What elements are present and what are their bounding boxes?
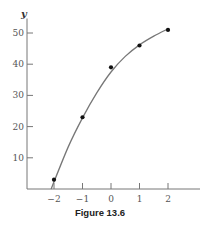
x-ticks: −2−1012 [47, 183, 171, 204]
y-axis-label: y [20, 8, 28, 19]
data-points [52, 28, 170, 182]
data-point [137, 43, 141, 47]
y-tick-label: 30 [13, 90, 25, 100]
x-tick-label: −1 [76, 194, 89, 204]
axes [27, 19, 200, 189]
data-point [52, 178, 56, 182]
fitted-curve [51, 29, 168, 189]
x-tick-label: 0 [108, 194, 114, 204]
figure-caption: Figure 13.6 [0, 207, 200, 218]
y-tick-label: 40 [13, 59, 25, 69]
y-tick-label: 10 [13, 153, 25, 163]
x-tick-label: −2 [47, 194, 60, 204]
data-point [166, 28, 170, 32]
x-tick-label: 2 [165, 194, 171, 204]
y-tick-label: 20 [13, 122, 25, 132]
data-point [109, 65, 113, 69]
y-ticks: 1020304050 [13, 28, 33, 163]
y-tick-label: 50 [13, 28, 25, 38]
data-point [80, 115, 84, 119]
chart: −2−1012 1020304050 x y [0, 0, 200, 205]
x-tick-label: 1 [137, 194, 143, 204]
